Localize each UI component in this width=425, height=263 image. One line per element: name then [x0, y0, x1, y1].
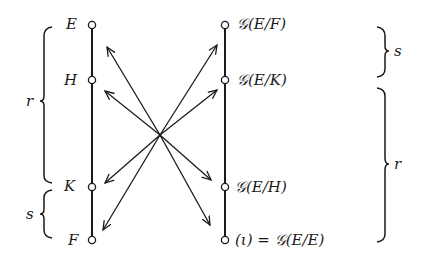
node-G-EF	[221, 21, 228, 28]
label-F: F	[68, 232, 78, 248]
arrows	[103, 45, 217, 230]
brace-label-left-r: r	[26, 93, 33, 109]
node-G-EH	[221, 183, 228, 190]
node-F	[88, 236, 95, 243]
node-H	[88, 76, 95, 83]
brace-label-left-s: s	[26, 206, 34, 222]
node-E	[88, 21, 95, 28]
brace-right-s	[377, 27, 389, 77]
galois-correspondence-diagram	[0, 0, 425, 263]
node-G-EK	[221, 76, 228, 83]
label-H: H	[64, 72, 77, 88]
brace-right-r	[377, 88, 389, 242]
label-G-EK: 𝒢(E/K)	[237, 72, 287, 88]
brace-label-right-s: s	[394, 43, 402, 59]
label-G-EF: 𝒢(E/F)	[237, 16, 286, 32]
node-G-EE	[221, 236, 228, 243]
label-K: K	[64, 178, 75, 194]
label-G-EH: 𝒢(E/H)	[235, 179, 287, 195]
label-G-EE: (ι) = 𝒢(E/E)	[235, 232, 324, 248]
label-E: E	[66, 16, 77, 32]
node-K	[88, 183, 95, 190]
brace-label-right-r: r	[394, 156, 401, 172]
brace-left-s	[40, 190, 52, 238]
brace-left-r	[40, 27, 52, 183]
